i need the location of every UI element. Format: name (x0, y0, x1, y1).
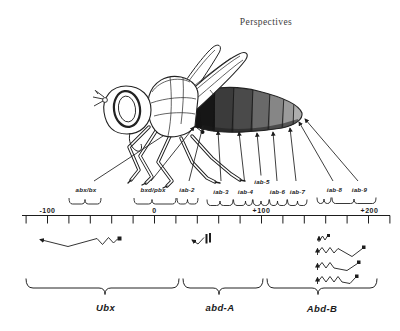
ruler-label-minus100: -100 (39, 207, 55, 214)
transcript-glyphs (40, 233, 366, 284)
ruler-label-plus200: +200 (361, 207, 379, 214)
gene-label-Ubx: Ubx (96, 302, 115, 313)
regulatory-region-labels: abx/bx bxd/pbx iab-2 iab-3 iab-4 iab-5 i… (76, 178, 368, 195)
connector-iab-7 (290, 128, 296, 181)
antenna-base (103, 98, 108, 103)
brace-Ubx (26, 279, 179, 295)
region-label-iab-9: iab-9 (352, 186, 368, 193)
transcript-Abd-B-3 (318, 261, 361, 271)
fly-illustration (93, 45, 305, 188)
connector-abx-bx (94, 136, 163, 181)
connector-iab-4 (239, 132, 245, 181)
connector-iab-6 (273, 132, 277, 181)
connector-iab-5 (257, 133, 261, 176)
brace-Abd-B (267, 279, 377, 295)
antennae-icon (93, 90, 104, 106)
gene-label-Abd-B: Abd-B (306, 303, 338, 314)
transcript-Abd-B-2 (318, 246, 366, 257)
region-label-iab-6: iab-6 (270, 188, 286, 195)
region-label-bxd-pbx: bxd/pbx (140, 186, 165, 193)
brace-abd-A (183, 279, 263, 295)
bithorax-complex-figure: Perspectives (0, 0, 400, 331)
coordinate-ruler: -100 0 +100 +200 (22, 207, 390, 224)
region-label-iab-8: iab-8 (327, 186, 343, 193)
ruler-ticks (26, 216, 390, 224)
gene-labels: Ubx abd-A Abd-B (96, 302, 337, 314)
figure-canvas: Perspectives (0, 0, 400, 331)
gene-label-abd-A: abd-A (206, 302, 235, 313)
region-label-iab-5: iab-5 (254, 178, 270, 185)
region-label-iab-2: iab-2 (179, 186, 195, 193)
ruler-label-0: 0 (152, 207, 156, 214)
transcript-Abd-B-1 (319, 234, 330, 242)
region-label-iab-7: iab-7 (290, 188, 306, 195)
gene-braces (26, 279, 377, 295)
region-label-abx-bx: abx/bx (76, 186, 97, 193)
connector-iab-3 (218, 131, 221, 181)
transcript-abd-A (192, 233, 211, 244)
transcript-Abd-B-4 (318, 275, 359, 285)
page-title: Perspectives (240, 17, 292, 27)
ruler-label-plus100: +100 (253, 207, 271, 214)
region-braces (69, 198, 376, 206)
abdomen-segment (284, 80, 294, 138)
connector-iab-8 (299, 122, 333, 181)
region-label-iab-3: iab-3 (213, 188, 229, 195)
connector-iab-9 (305, 119, 358, 181)
region-label-iab-4: iab-4 (238, 188, 254, 195)
fly-head (93, 86, 151, 151)
transcript-Ubx (40, 237, 122, 247)
